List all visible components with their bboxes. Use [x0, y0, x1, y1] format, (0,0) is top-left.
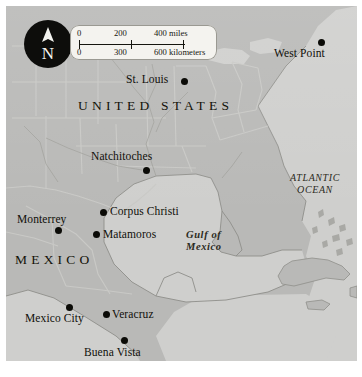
scale-miles-start: 0	[77, 28, 81, 38]
map-plate: N 0 200 400 miles 0 300 600 kilometers	[6, 6, 357, 361]
compass-rose-icon: N	[24, 20, 72, 68]
scale-kilometers-end: 600 kilometers	[154, 47, 205, 57]
scale-bar: 0 200 400 miles 0 300 600 kilometers	[70, 25, 217, 60]
scale-miles-mid: 200	[114, 28, 127, 38]
scale-miles-row: 0 200 400 miles	[70, 28, 217, 38]
city-dot-monterrey	[55, 227, 62, 234]
city-dot-buena-vista	[121, 337, 128, 344]
city-dot-matamoros	[93, 231, 100, 238]
compass-needle-icon: N	[24, 20, 72, 68]
compass-north-letter: N	[42, 44, 54, 63]
scale-kilometers-mid: 300	[114, 47, 127, 57]
city-dot-natchitoches	[143, 167, 150, 174]
city-dot-mexico-city	[66, 304, 73, 311]
map-figure: N 0 200 400 miles 0 300 600 kilometers	[0, 0, 362, 377]
scale-kilometers-row: 0 300 600 kilometers	[70, 47, 217, 57]
scale-kilometers-start: 0	[77, 47, 81, 57]
city-dot-st-louis	[181, 78, 188, 85]
scale-miles-end: 400 miles	[154, 28, 188, 38]
city-dot-west-point	[318, 39, 325, 46]
city-dot-corpus-christi	[100, 209, 107, 216]
city-dot-veracruz	[103, 311, 110, 318]
